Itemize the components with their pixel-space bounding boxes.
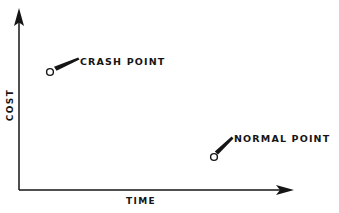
leader-line-normal-point xyxy=(215,137,234,155)
data-point-marker-normal-point xyxy=(211,154,218,161)
y-axis-label: COST xyxy=(5,86,15,124)
annotation-normal-point: NORMAL POINT xyxy=(234,133,330,144)
data-point-marker-crash-point xyxy=(47,69,54,76)
x-axis-label: TIME xyxy=(126,196,156,206)
leader-line-crash-point xyxy=(54,58,80,71)
annotation-crash-point: CRASH POINT xyxy=(80,56,165,67)
cost-time-diagram: CRASH POINT NORMAL POINT TIME COST xyxy=(0,0,339,213)
diagram-canvas xyxy=(0,0,339,213)
